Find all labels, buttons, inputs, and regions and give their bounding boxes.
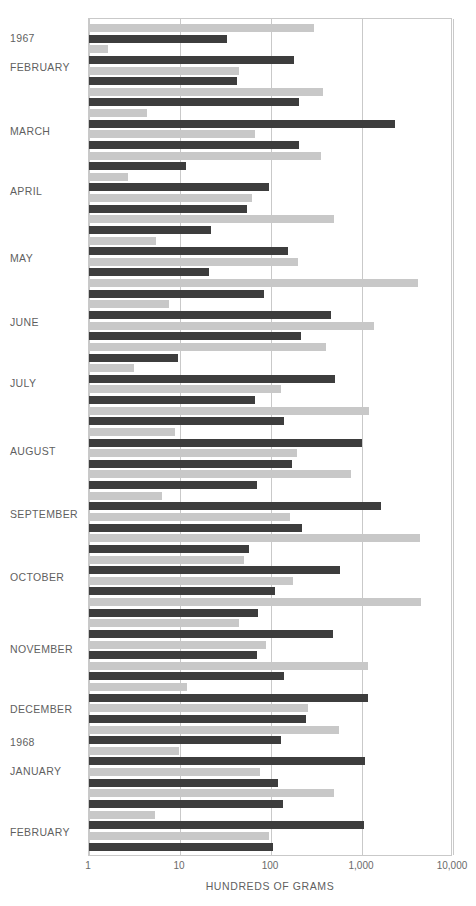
row-label-april: APRIL bbox=[10, 186, 42, 197]
gridline-10000 bbox=[453, 19, 454, 855]
bar-dark-17 bbox=[89, 205, 247, 213]
bar-dark-49 bbox=[89, 545, 249, 553]
bar-light-66 bbox=[89, 726, 339, 734]
bar-light-72 bbox=[89, 789, 334, 797]
bar-dark-13 bbox=[89, 162, 186, 170]
bar-dark-9 bbox=[89, 120, 395, 128]
bar-dark-65 bbox=[89, 715, 306, 723]
row-label-august: AUGUST bbox=[10, 446, 56, 457]
bar-dark-53 bbox=[89, 587, 275, 595]
bar-light-34 bbox=[89, 385, 281, 393]
row-label-1968: 1968 bbox=[10, 737, 35, 748]
x-tick-label-1: 1 bbox=[85, 860, 91, 871]
bar-dark-41 bbox=[89, 460, 292, 468]
bar-dark-35 bbox=[89, 396, 255, 404]
bar-dark-7 bbox=[89, 98, 299, 106]
bar-dark-5 bbox=[89, 77, 237, 85]
bar-light-56 bbox=[89, 619, 239, 627]
row-label-february: FEBRUARY bbox=[10, 62, 70, 73]
bar-light-70 bbox=[89, 768, 260, 776]
bar-light-16 bbox=[89, 194, 252, 202]
bar-light-2 bbox=[89, 45, 108, 53]
row-label-october: OCTOBER bbox=[10, 572, 64, 583]
bar-dark-59 bbox=[89, 651, 257, 659]
bar-light-6 bbox=[89, 88, 323, 96]
bar-dark-69 bbox=[89, 757, 365, 765]
row-label-february: FEBRUARY bbox=[10, 827, 70, 838]
bar-dark-57 bbox=[89, 630, 333, 638]
bar-light-60 bbox=[89, 662, 368, 670]
bar-dark-45 bbox=[89, 502, 381, 510]
bar-light-12 bbox=[89, 152, 321, 160]
month-label-column: 1967FEBRUARYMARCHAPRILMAYJUNEJULYAUGUSTS… bbox=[0, 0, 88, 856]
row-label-may: MAY bbox=[10, 253, 33, 264]
row-label-september: SEPTEMBER bbox=[10, 509, 78, 520]
bar-light-54 bbox=[89, 598, 421, 606]
bar-light-22 bbox=[89, 258, 298, 266]
bar-light-52 bbox=[89, 577, 293, 585]
bar-light-30 bbox=[89, 343, 326, 351]
bar-dark-33 bbox=[89, 375, 335, 383]
bar-dark-61 bbox=[89, 672, 284, 680]
bar-light-74 bbox=[89, 811, 155, 819]
bar-dark-39 bbox=[89, 439, 362, 447]
bar-light-0 bbox=[89, 24, 314, 32]
bar-dark-37 bbox=[89, 417, 284, 425]
bar-light-48 bbox=[89, 534, 420, 542]
bar-dark-29 bbox=[89, 332, 301, 340]
bar-light-76 bbox=[89, 832, 269, 840]
bar-dark-43 bbox=[89, 481, 257, 489]
log-scale-bar-chart: 1967FEBRUARYMARCHAPRILMAYJUNEJULYAUGUSTS… bbox=[0, 0, 476, 906]
row-label-july: JULY bbox=[10, 378, 36, 389]
bar-dark-21 bbox=[89, 247, 288, 255]
bar-dark-11 bbox=[89, 141, 299, 149]
bar-light-20 bbox=[89, 237, 156, 245]
bar-light-26 bbox=[89, 300, 169, 308]
bar-light-58 bbox=[89, 641, 266, 649]
bar-light-50 bbox=[89, 556, 244, 564]
x-tick-label-100: 100 bbox=[262, 860, 279, 871]
bar-light-10 bbox=[89, 130, 255, 138]
x-axis-tick-labels: 1101001,00010,000 bbox=[88, 860, 452, 880]
bar-dark-23 bbox=[89, 268, 209, 276]
bar-light-64 bbox=[89, 704, 308, 712]
bar-dark-15 bbox=[89, 183, 269, 191]
bar-dark-27 bbox=[89, 311, 331, 319]
bar-dark-55 bbox=[89, 609, 258, 617]
bar-light-14 bbox=[89, 173, 128, 181]
bar-dark-19 bbox=[89, 226, 211, 234]
bar-light-62 bbox=[89, 683, 187, 691]
x-axis-title: HUNDREDS OF GRAMS bbox=[88, 880, 452, 892]
bar-dark-67 bbox=[89, 736, 281, 744]
bar-light-68 bbox=[89, 747, 179, 755]
bar-light-28 bbox=[89, 322, 374, 330]
bar-light-18 bbox=[89, 215, 334, 223]
bars-layer bbox=[89, 19, 451, 855]
row-label-january: JANUARY bbox=[10, 766, 61, 777]
bar-dark-3 bbox=[89, 56, 294, 64]
bar-dark-31 bbox=[89, 354, 178, 362]
bar-light-36 bbox=[89, 407, 369, 415]
bar-light-4 bbox=[89, 67, 239, 75]
row-label-june: JUNE bbox=[10, 317, 39, 328]
bar-light-40 bbox=[89, 449, 297, 457]
bar-dark-47 bbox=[89, 524, 302, 532]
row-label-november: NOVEMBER bbox=[10, 644, 73, 655]
plot-area bbox=[88, 18, 452, 856]
row-label-march: MARCH bbox=[10, 126, 50, 137]
x-tick-label-10: 10 bbox=[173, 860, 184, 871]
row-label-december: DECEMBER bbox=[10, 704, 72, 715]
bar-dark-75 bbox=[89, 821, 364, 829]
bar-light-8 bbox=[89, 109, 147, 117]
bar-light-24 bbox=[89, 279, 418, 287]
bar-light-42 bbox=[89, 470, 351, 478]
bar-dark-63 bbox=[89, 694, 368, 702]
bar-light-32 bbox=[89, 364, 134, 372]
bar-light-44 bbox=[89, 492, 162, 500]
bar-light-38 bbox=[89, 428, 175, 436]
bar-dark-77 bbox=[89, 843, 273, 851]
x-tick-label-1000: 1,000 bbox=[348, 860, 373, 871]
bar-dark-25 bbox=[89, 290, 264, 298]
bar-dark-1 bbox=[89, 35, 227, 43]
bar-dark-73 bbox=[89, 800, 283, 808]
